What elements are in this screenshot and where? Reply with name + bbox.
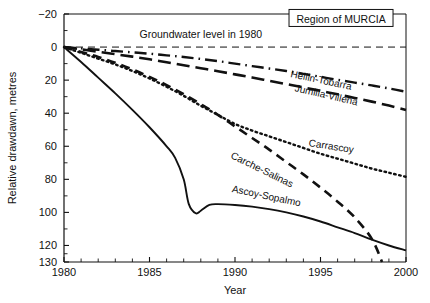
groundwater-level-annotation: Groundwater level in 1980: [140, 28, 263, 40]
y-tick-label: 0: [51, 41, 57, 53]
y-tick-label: 20: [45, 74, 57, 86]
y-tick-label: 60: [45, 140, 57, 152]
y-tick-label: 100: [39, 206, 57, 218]
x-tick-label: 2000: [394, 266, 418, 278]
region-title-box: Region of MURCIA: [289, 9, 393, 26]
x-tick-label: 1990: [223, 266, 247, 278]
y-axis-title: Relative drawdawn, metres: [6, 71, 18, 204]
y-tick-label: 40: [45, 107, 57, 119]
x-tick-label: 1985: [137, 266, 161, 278]
x-axis-title: Year: [224, 284, 247, 296]
y-tick-label: 120: [39, 239, 57, 251]
y-tick-label: 130: [39, 256, 57, 268]
chart-figure: 19801985199019952000 −200204060801001201…: [0, 0, 430, 303]
y-tick-label: −20: [38, 8, 57, 20]
y-tick-label: 80: [45, 173, 57, 185]
groundwater-drawdown-line-chart: 19801985199019952000 −200204060801001201…: [0, 0, 430, 303]
region-title-text: Region of MURCIA: [296, 13, 385, 25]
x-tick-label: 1995: [308, 266, 332, 278]
